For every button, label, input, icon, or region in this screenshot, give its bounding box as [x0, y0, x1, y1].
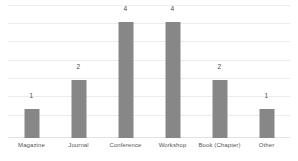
category-label-magazine: Magazine	[18, 140, 45, 150]
bar-slot-conference: 4	[102, 5, 149, 138]
bar-other[interactable]	[259, 109, 274, 138]
bar-slot-journal: 2	[55, 5, 102, 138]
bar-slot-workshop: 4	[149, 5, 196, 138]
plot-area: 1 2 4 4 2 1	[8, 5, 290, 138]
category-axis-labels: Magazine Journal Conference Workshop Boo…	[8, 140, 290, 156]
bar-value-label: 2	[77, 63, 81, 71]
bar-magazine[interactable]	[24, 109, 39, 138]
bar-series: 1 2 4 4 2 1	[8, 5, 290, 138]
category-label-conference: Conference	[109, 140, 141, 150]
bar-value-label: 1	[265, 92, 269, 100]
bar-value-label: 1	[30, 92, 34, 100]
bar-slot-magazine: 1	[8, 5, 55, 138]
bar-conference[interactable]	[118, 22, 133, 138]
bar-book-chapter[interactable]	[212, 80, 227, 138]
bar-value-label: 4	[171, 5, 175, 13]
bar-value-label: 4	[124, 5, 128, 13]
bar-slot-book-chapter: 2	[196, 5, 243, 138]
category-label-book-chapter: Book (Chapter)	[198, 140, 240, 150]
category-label-journal: Journal	[68, 140, 88, 150]
bar-value-label: 2	[218, 63, 222, 71]
category-label-other: Other	[259, 140, 275, 150]
bar-chart: 1 2 4 4 2 1	[0, 0, 298, 161]
bar-slot-other: 1	[243, 5, 290, 138]
bar-journal[interactable]	[71, 80, 86, 138]
category-label-workshop: Workshop	[159, 140, 187, 150]
bar-workshop[interactable]	[165, 22, 180, 138]
